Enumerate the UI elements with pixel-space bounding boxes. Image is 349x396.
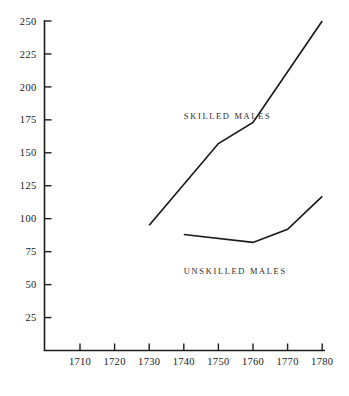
y-tick-label: 75 xyxy=(25,246,36,257)
chart-container: 255075100125150175200225250 171017201730… xyxy=(0,0,349,396)
x-tick-label: 1750 xyxy=(207,356,229,367)
y-axis-ticks xyxy=(45,21,52,318)
series-line-unskilled-males xyxy=(184,196,322,242)
x-axis-tick-labels: 17101720173017401750176017701780 xyxy=(69,356,333,367)
x-tick-label: 1760 xyxy=(242,356,264,367)
data-series-group xyxy=(149,21,322,242)
line-chart: 255075100125150175200225250 171017201730… xyxy=(0,0,349,396)
x-tick-label: 1720 xyxy=(103,356,125,367)
x-axis-ticks xyxy=(80,344,322,351)
y-axis-tick-labels: 255075100125150175200225250 xyxy=(20,16,37,324)
axis-lines xyxy=(45,21,325,351)
x-tick-label: 1730 xyxy=(138,356,160,367)
x-tick-label: 1710 xyxy=(69,356,91,367)
y-tick-label: 200 xyxy=(20,82,37,93)
series-line-skilled-males xyxy=(149,21,322,225)
y-tick-label: 225 xyxy=(20,49,37,60)
chart-axes xyxy=(45,21,325,351)
y-tick-label: 50 xyxy=(25,279,36,290)
y-tick-label: 175 xyxy=(20,114,37,125)
y-tick-label: 250 xyxy=(20,16,37,27)
x-tick-label: 1740 xyxy=(173,356,195,367)
x-tick-label: 1770 xyxy=(276,356,298,367)
series-label-unskilled-males: UNSKILLED MALES xyxy=(184,267,287,276)
x-tick-label: 1780 xyxy=(311,356,333,367)
y-tick-label: 150 xyxy=(20,147,37,158)
series-annotations-group: SKILLED MALESUNSKILLED MALES xyxy=(184,112,287,277)
y-tick-label: 25 xyxy=(25,312,36,323)
series-label-skilled-males: SKILLED MALES xyxy=(184,112,271,121)
y-tick-label: 100 xyxy=(20,213,37,224)
y-tick-label: 125 xyxy=(20,180,37,191)
